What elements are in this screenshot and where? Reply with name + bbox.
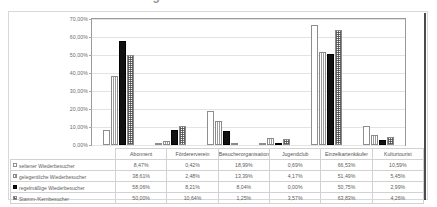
right-edge-marker [424, 13, 426, 200]
data-cell: 2,48% [167, 171, 218, 182]
bar-group [301, 19, 353, 145]
bar [171, 130, 178, 145]
data-cell: 4,26% [372, 193, 423, 204]
y-axis-tick-label: 60,00% [70, 34, 88, 40]
bar-group [92, 19, 144, 145]
table-body: AbonnentFörderervereinBesucherorganisati… [11, 149, 424, 204]
bar [215, 121, 222, 145]
bar-group [249, 19, 301, 145]
data-cell: 0,69% [269, 160, 320, 171]
y-axis-tick-label: 30,00% [70, 88, 88, 94]
bar [163, 141, 170, 145]
category-header-cell: Besucherorganisation [218, 149, 269, 160]
table-header-row: AbonnentFörderervereinBesucherorganisati… [11, 149, 424, 160]
data-cell: 66,53% [321, 160, 372, 171]
bar [335, 30, 342, 145]
bar [119, 41, 126, 146]
category-header-cell: Jugendclub [269, 149, 320, 160]
data-cell: 13,39% [218, 171, 269, 182]
data-table: AbonnentFörderervereinBesucherorganisati… [10, 148, 424, 204]
legend-label: gelegentliche Wiederbesucher [19, 173, 86, 179]
gridline [92, 145, 405, 146]
bar [371, 135, 378, 145]
bar-groups [92, 19, 405, 145]
legend-swatch-icon [13, 174, 17, 178]
legend-swatch-icon [13, 185, 17, 189]
category-header-cell: Einzelkartenkäufer [321, 149, 372, 160]
data-cell: 0,42% [167, 160, 218, 171]
table-row: gelegentliche Wiederbesucher38,61%2,48%1… [11, 171, 424, 182]
data-cell: 8,21% [167, 182, 218, 193]
bar [387, 137, 394, 145]
bar [231, 143, 238, 145]
bar [111, 76, 118, 145]
data-cell: 8,04% [218, 182, 269, 193]
data-cell: 4,17% [269, 171, 320, 182]
data-cell: 51,49% [321, 171, 372, 182]
bar [127, 55, 134, 145]
bar [103, 130, 110, 145]
data-cell: 3,57% [269, 193, 320, 204]
legend-entry: regelmäßige Wiederbesucher [11, 182, 116, 193]
chart-object-frame: 70,00%60,00%50,00%40,00%30,00%20,00%10,0… [8, 11, 428, 200]
bar [223, 131, 230, 145]
data-cell: 2,99% [372, 182, 423, 193]
bar [179, 126, 186, 145]
data-cell: 50,00% [116, 193, 167, 204]
y-axis-tick-label: 50,00% [70, 52, 88, 58]
bar [363, 126, 370, 145]
legend-label: regelmäßige Wiederbesucher [19, 184, 85, 190]
data-cell: 18,99% [218, 160, 269, 171]
data-cell: 10,59% [372, 160, 423, 171]
plot-area: 70,00%60,00%50,00%40,00%30,00%20,00%10,0… [91, 18, 406, 146]
category-header-cell: Kulturtourist [372, 149, 423, 160]
y-axis-tick-mark [89, 145, 92, 146]
legend-entry: gelegentliche Wiederbesucher [11, 171, 116, 182]
y-axis-tick-label: 40,00% [70, 70, 88, 76]
plot-area-wrapper: 70,00%60,00%50,00%40,00%30,00%20,00%10,0… [51, 18, 416, 146]
data-cell: 58,06% [116, 182, 167, 193]
chart-title-strip: Besucherbindung [0, 0, 437, 9]
y-axis-tick-label: 10,00% [70, 124, 88, 130]
bar-group [353, 19, 405, 145]
legend-label: seltener Wiederbesucher [19, 162, 75, 168]
bar [327, 54, 334, 145]
legend-swatch-icon [13, 163, 17, 167]
bar-group [196, 19, 248, 145]
y-axis-tick-label: 70,00% [70, 16, 88, 22]
bar-group [144, 19, 196, 145]
bar [155, 143, 162, 145]
data-cell: 8,47% [116, 160, 167, 171]
bar [207, 111, 214, 145]
bar [319, 52, 326, 145]
table-corner-cell [11, 149, 116, 160]
data-cell: 5,45% [372, 171, 423, 182]
table-row: regelmäßige Wiederbesucher58,06%8,21%8,0… [11, 182, 424, 193]
data-cell: 50,75% [321, 182, 372, 193]
legend-entry: seltener Wiederbesucher [11, 160, 116, 171]
bar [267, 138, 274, 146]
bar [259, 143, 266, 145]
data-cell: 38,61% [116, 171, 167, 182]
category-header-cell: Fördererverein [167, 149, 218, 160]
y-axis-tick-label: 20,00% [70, 106, 88, 112]
data-table-wrapper: AbonnentFörderervereinBesucherorganisati… [10, 148, 424, 198]
bar [379, 140, 386, 145]
bar [311, 25, 318, 145]
data-cell: 10,64% [167, 193, 218, 204]
table-row: seltener Wiederbesucher8,47%0,42%18,99%0… [11, 160, 424, 171]
data-cell: 1,25% [218, 193, 269, 204]
bar [275, 143, 282, 145]
category-header-cell: Abonnent [116, 149, 167, 160]
table-row: Stamm-/Kernbesucher50,00%10,64%1,25%3,57… [11, 193, 424, 204]
legend-entry: Stamm-/Kernbesucher [11, 193, 116, 204]
legend-label: Stamm-/Kernbesucher [19, 195, 69, 201]
data-cell: 63,83% [321, 193, 372, 204]
legend-swatch-icon [13, 196, 17, 200]
bar [283, 139, 290, 145]
data-cell: 0,00% [269, 182, 320, 193]
page-title: Besucherbindung [55, 0, 160, 3]
